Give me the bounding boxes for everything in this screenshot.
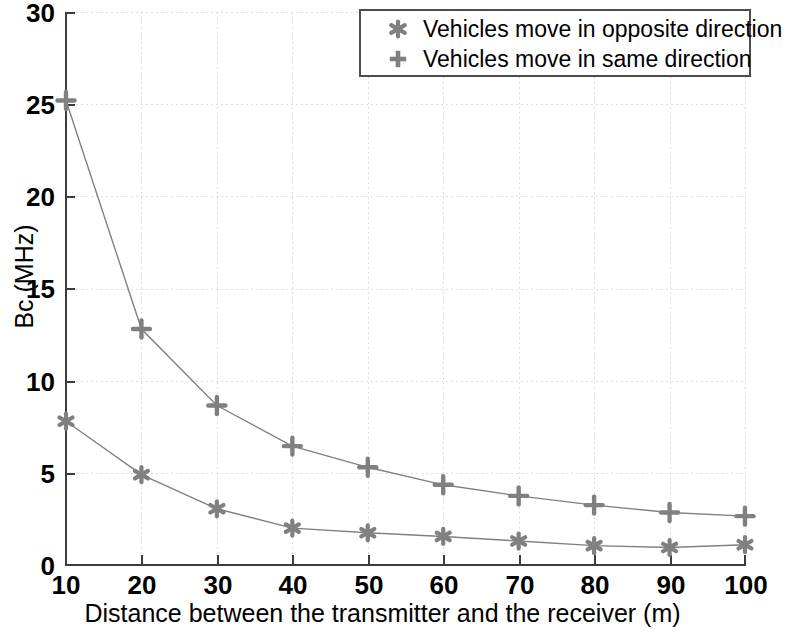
plus-marker-icon — [387, 48, 409, 70]
gridline-vertical — [670, 12, 671, 565]
x-tick-mark — [670, 555, 672, 565]
legend-label: Vehicles move in opposite direction — [423, 18, 782, 41]
x-tick-label: 60 — [404, 572, 484, 598]
legend-label: Vehicles move in same direction — [423, 48, 752, 71]
gridline-horizontal — [66, 196, 745, 197]
x-tick-label: 100 — [706, 572, 786, 598]
gridline-horizontal — [66, 289, 745, 290]
x-tick-mark — [368, 555, 370, 565]
legend: Vehicles move in opposite direction Vehi… — [359, 9, 751, 77]
x-tick-label: 90 — [631, 572, 711, 598]
gridline-vertical — [594, 12, 595, 565]
y-axis-title: Bc (MHz) — [12, 147, 37, 407]
gridline-horizontal — [66, 381, 745, 382]
x-tick-label: 80 — [555, 572, 635, 598]
y-tick-label: 25 — [0, 92, 55, 118]
x-tick-label: 10 — [26, 572, 106, 598]
x-tick-label: 40 — [253, 572, 333, 598]
y-tick-mark — [66, 196, 75, 198]
x-tick-label: 70 — [480, 572, 560, 598]
plot-area — [66, 12, 745, 565]
y-tick-mark — [66, 104, 75, 106]
gridline-vertical — [443, 12, 444, 565]
legend-entry-opposite-direction[interactable]: Vehicles move in opposite direction — [361, 14, 749, 44]
y-tick-mark — [66, 288, 75, 290]
gridline-vertical — [292, 12, 293, 565]
gridline-vertical — [368, 12, 369, 565]
axis-bottom — [65, 564, 746, 566]
gridline-horizontal — [66, 104, 745, 105]
hexagram-marker-icon — [387, 18, 409, 40]
gridline-vertical — [141, 12, 142, 565]
x-tick-label: 20 — [102, 572, 182, 598]
axis-corner-tick-bottomright — [744, 555, 746, 565]
x-axis-title: Distance between the transmitter and the… — [0, 601, 765, 626]
axis-corner-tick-topleft — [66, 12, 75, 14]
legend-entry-same-direction[interactable]: Vehicles move in same direction — [361, 44, 749, 74]
y-tick-label: 30 — [0, 0, 55, 26]
x-tick-label: 50 — [329, 572, 409, 598]
y-tick-mark — [66, 381, 75, 383]
y-tick-mark — [66, 473, 75, 475]
x-tick-mark — [217, 555, 219, 565]
x-tick-mark — [594, 555, 596, 565]
x-tick-mark — [443, 555, 445, 565]
x-tick-mark — [292, 555, 294, 565]
y-tick-label: 5 — [0, 461, 55, 487]
gridline-horizontal — [66, 473, 745, 474]
x-tick-mark — [519, 555, 521, 565]
gridline-vertical — [519, 12, 520, 565]
axis-right — [745, 12, 746, 565]
x-tick-mark — [141, 555, 143, 565]
x-tick-label: 30 — [178, 572, 258, 598]
gridline-vertical — [217, 12, 218, 565]
